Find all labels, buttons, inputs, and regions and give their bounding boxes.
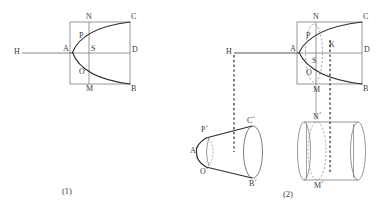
panel1-caption: (1) [62,187,72,196]
panel2-label-P-prime: P´ [201,126,208,134]
panel2-label-A-prime: A´ [190,147,198,155]
panel1-label-O: O [79,68,85,76]
panel-1-graphics [22,22,130,84]
panel2-label-C-prime: C´ [247,117,255,125]
panel2-label-B: B [363,85,368,93]
panel2-caption: (2) [283,190,293,199]
panel1-label-H: H [14,48,20,56]
panel1-label-C: C [131,13,136,21]
panel1-label-N: N [86,13,92,21]
panel1-label-B: B [131,85,136,93]
cone-inner-ellipse-dashed [209,138,213,166]
panel2-label-S: S [312,57,316,65]
panel1-label-D: D [132,46,138,54]
panel1-label-A: A [63,45,69,53]
panel2-label-C: C [363,13,368,21]
diagram-canvas: H A N P S O M C D B (1) H A N P S K O M … [0,0,377,212]
panel2-label-O-prime: O´ [200,168,208,176]
cylinder-left-ellipse [298,122,311,180]
cone-inner-ellipse-solid [207,138,210,166]
cylinder-right-ellipse [351,122,366,180]
panel1-label-S: S [91,45,95,53]
panel2-label-B-prime: B´ [249,180,257,188]
panel-2-graphics [196,22,365,180]
panel2-label-K: K [329,41,335,49]
cone-base-ellipse [244,126,263,178]
panel2-label-O: O [306,69,312,77]
panel2-label-H: H [226,48,232,56]
panel1-label-M: M [86,85,93,93]
panel2-label-P: P [306,32,310,40]
panel2-label-N-prime: N´ [313,113,321,121]
cone-slant-bottom [206,167,252,178]
panel2-label-A: A [290,45,296,53]
panel2-label-D: D [364,46,370,54]
panel2-label-N: N [313,13,319,21]
panel2-label-M-prime: M´ [314,182,324,190]
panel1-label-P: P [79,32,83,40]
panel2-label-M: M [313,86,320,94]
